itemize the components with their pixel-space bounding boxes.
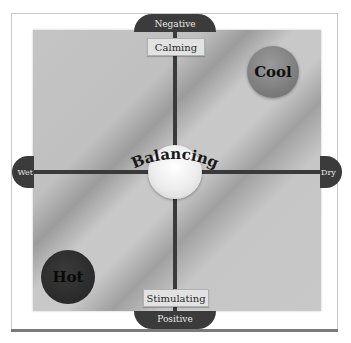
node-hot: Hot: [41, 250, 95, 304]
frame-bottom-rule: [11, 329, 338, 332]
axis-label-wet-text: Wet: [17, 168, 33, 177]
axis-label-negative-text: Negative: [154, 19, 195, 29]
tag-calming: Calming: [147, 38, 205, 56]
svg-text:Balancing: Balancing: [129, 145, 222, 173]
node-cool: Cool: [247, 46, 299, 98]
tag-stimulating-text: Stimulating: [146, 293, 205, 304]
tag-calming-text: Calming: [155, 42, 197, 53]
axis-label-positive-text: Positive: [157, 314, 193, 324]
node-cool-label: Cool: [254, 63, 292, 81]
axis-label-dry: Dry: [320, 156, 342, 188]
node-balancing-label-wrap: Balancing: [118, 140, 232, 180]
axis-label-positive: Positive: [134, 311, 216, 329]
axis-label-dry-text: Dry: [321, 168, 336, 177]
tag-stimulating: Stimulating: [143, 289, 209, 307]
node-balancing-label: Balancing: [129, 145, 222, 173]
axis-label-negative: Negative: [134, 14, 216, 32]
curved-label: Balancing: [118, 140, 232, 180]
node-hot-label: Hot: [52, 268, 83, 286]
